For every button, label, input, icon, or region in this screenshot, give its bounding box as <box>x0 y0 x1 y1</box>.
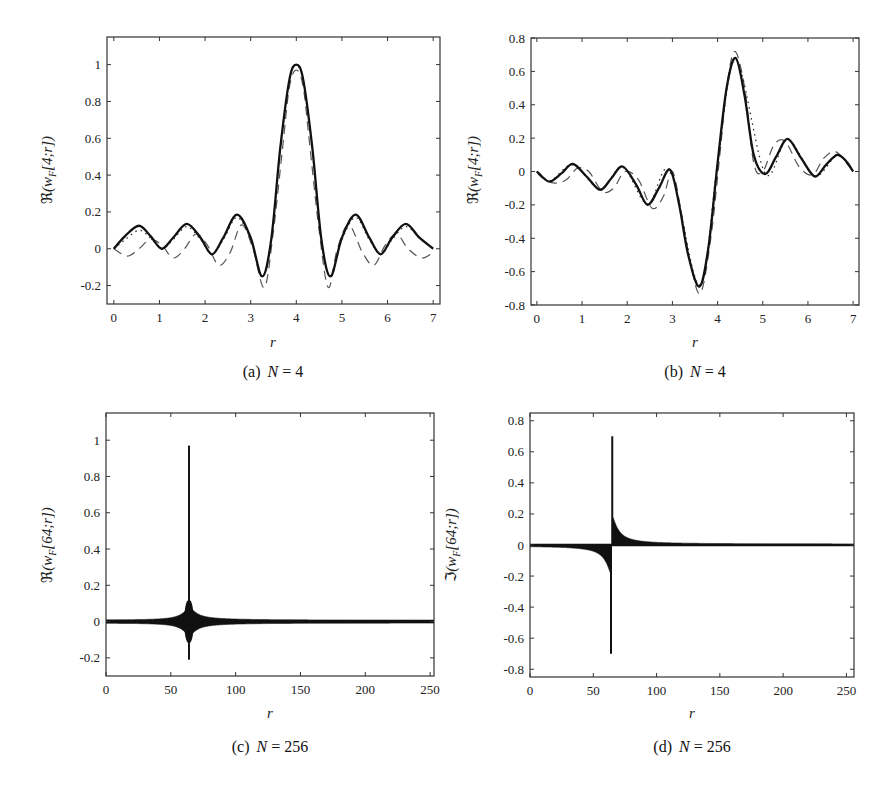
x-tick-label: 0 <box>111 310 118 325</box>
x-axis-label-a: r <box>270 334 276 350</box>
series-dashed-a <box>114 70 433 288</box>
x-tick-label: 150 <box>291 682 311 697</box>
y-tick-label: 0.4 <box>84 542 101 557</box>
x-tick-label: 100 <box>647 683 667 698</box>
y-tick-label: -0.2 <box>504 197 525 212</box>
negative-tail-d <box>530 544 611 573</box>
y-axis-label-a: ℜ(wF[4;r]) <box>39 136 58 204</box>
y-axis-label-d: ℑ(wF[64;r]) <box>443 508 462 582</box>
x-tick-label: 250 <box>420 682 440 697</box>
y-tick-label: 0 <box>94 614 101 629</box>
y-tick-label: 0.2 <box>509 131 525 146</box>
series-solid-b <box>537 58 853 287</box>
x-axis-label-b: r <box>692 334 698 350</box>
x-tick-label: 250 <box>837 683 857 698</box>
series-group-b <box>537 51 853 294</box>
panel-c: 050100150200250-0.200.20.40.60.81 r ℜ(wF… <box>39 413 440 756</box>
x-tick-label: 4 <box>714 311 721 326</box>
x-tick-label: 2 <box>202 310 209 325</box>
x-tick-label: 0 <box>103 682 110 697</box>
series-group-a <box>114 65 433 288</box>
y-tick-label: 0.8 <box>84 469 100 484</box>
x-tick-label: 0 <box>527 683 534 698</box>
series-group-d <box>530 436 854 653</box>
x-tick-label: 2 <box>624 311 631 326</box>
y-tick-label: -0.2 <box>503 569 524 584</box>
y-tick-label: 0 <box>518 538 525 553</box>
y-tick-label: 0.8 <box>85 94 101 109</box>
x-tick-label: 50 <box>587 683 600 698</box>
y-axis-label-c: ℜ(wF[64;r]) <box>39 507 58 583</box>
x-tick-label: 200 <box>773 683 793 698</box>
x-tick-label: 200 <box>356 682 376 697</box>
x-tick-label: 0 <box>534 311 541 326</box>
positive-tail-d <box>612 517 854 546</box>
x-axis-label-d: r <box>689 705 695 721</box>
y-tick-label: -0.4 <box>503 600 524 615</box>
y-tick-label: -0.2 <box>79 650 100 665</box>
y-tick-label: 0.2 <box>508 506 524 521</box>
y-tick-label: 0.6 <box>508 444 525 459</box>
x-tick-label: 100 <box>226 682 246 697</box>
caption-c: (c)N= 256 <box>232 738 308 756</box>
y-tick-label: 0.6 <box>84 505 101 520</box>
oscillation-band-c <box>106 607 434 636</box>
plot-area-d: 050100150200250-0.8-0.6-0.4-0.200.20.40.… <box>503 413 856 698</box>
y-tick-label: 1 <box>95 57 102 72</box>
y-axis-label-b: ℜ(wF[4;r]) <box>465 136 484 204</box>
x-tick-label: 5 <box>339 310 346 325</box>
figure: 01234567-0.200.20.40.60.81 r ℜ(wF[4;r]) … <box>0 0 890 787</box>
y-tick-label: -0.4 <box>504 231 525 246</box>
y-tick-label: 0.4 <box>85 168 102 183</box>
x-tick-label: 7 <box>850 311 857 326</box>
x-tick-label: 3 <box>669 311 676 326</box>
y-tick-label: 0.8 <box>509 31 525 46</box>
y-tick-label: 1 <box>94 433 101 448</box>
x-tick-label: 6 <box>805 311 812 326</box>
caption-b: (b)N= 4 <box>664 363 725 381</box>
plot-area-c: 050100150200250-0.200.20.40.60.81 <box>79 413 439 697</box>
x-tick-label: 6 <box>384 310 391 325</box>
x-tick-label: 150 <box>710 683 730 698</box>
y-tick-label: -0.2 <box>80 278 101 293</box>
y-tick-label: 0.8 <box>508 413 524 428</box>
x-tick-label: 50 <box>164 682 177 697</box>
y-tick-label: 0 <box>519 164 526 179</box>
y-tick-label: 0.6 <box>85 131 102 146</box>
caption-d: (d)N= 256 <box>653 738 730 756</box>
x-axis-label-c: r <box>267 705 273 721</box>
axes-frame-a <box>107 37 440 304</box>
series-group-c <box>106 446 434 660</box>
series-dotted-b <box>537 60 853 285</box>
plot-area-a: 01234567-0.200.20.40.60.81 <box>80 37 440 325</box>
y-tick-label: 0 <box>95 241 102 256</box>
panel-d: 050100150200250-0.8-0.6-0.4-0.200.20.40.… <box>443 413 856 756</box>
panel-a: 01234567-0.200.20.40.60.81 r ℜ(wF[4;r]) … <box>39 37 440 381</box>
y-tick-label: 0.4 <box>508 475 525 490</box>
x-tick-label: 7 <box>430 310 437 325</box>
y-tick-label: 0.2 <box>84 578 100 593</box>
x-tick-label: 3 <box>247 310 254 325</box>
y-tick-label: 0.6 <box>509 64 526 79</box>
x-tick-label: 5 <box>760 311 767 326</box>
y-tick-label: -0.8 <box>503 662 524 677</box>
y-tick-label: -0.6 <box>504 264 525 279</box>
y-tick-label: 0.4 <box>509 97 526 112</box>
x-tick-label: 1 <box>156 310 163 325</box>
caption-a: (a)N= 4 <box>243 363 303 381</box>
x-tick-label: 1 <box>579 311 586 326</box>
x-tick-label: 4 <box>293 310 300 325</box>
y-tick-label: -0.6 <box>503 631 524 646</box>
y-tick-label: -0.8 <box>504 298 525 313</box>
y-tick-label: 0.2 <box>85 204 101 219</box>
panel-b: 01234567-0.8-0.6-0.4-0.200.20.40.60.8 r … <box>465 31 859 382</box>
axes-frame-c <box>106 413 434 676</box>
plot-area-b: 01234567-0.8-0.6-0.4-0.200.20.40.60.8 <box>504 31 859 327</box>
